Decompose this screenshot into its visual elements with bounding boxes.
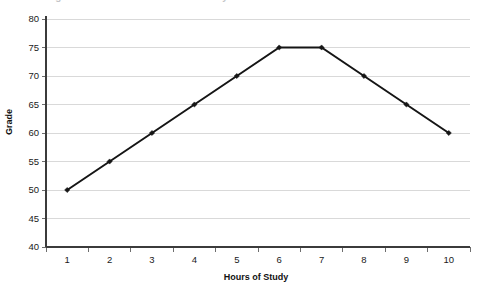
y-tick-label: 65 <box>28 99 39 110</box>
line-chart: Figure: Grade versus Hours of Study Grad… <box>0 0 486 293</box>
gridlines <box>46 19 470 219</box>
y-tick-label: 40 <box>28 241 39 252</box>
x-axis-tick-labels: 12345678910 <box>65 254 455 265</box>
data-series-grade <box>67 48 449 191</box>
y-tick-label: 70 <box>28 70 39 81</box>
x-tick-label: 1 <box>65 254 70 265</box>
x-tick-label: 7 <box>319 254 324 265</box>
data-point-markers <box>65 45 452 193</box>
x-tick-label: 10 <box>444 254 455 265</box>
axis-lines <box>46 16 470 247</box>
x-axis-title: Hours of Study <box>46 272 466 282</box>
x-tick-label: 2 <box>107 254 112 265</box>
y-axis-tick-labels: 404550556065707580 <box>28 13 39 252</box>
y-tick-label: 60 <box>28 127 39 138</box>
series-line-grade <box>67 48 449 191</box>
x-tick-label: 8 <box>361 254 366 265</box>
x-tick-label: 6 <box>277 254 282 265</box>
plot-area: 404550556065707580 12345678910 <box>0 0 486 293</box>
y-tick-label: 80 <box>28 13 39 24</box>
x-tick-label: 3 <box>149 254 154 265</box>
x-tick-label: 9 <box>404 254 409 265</box>
y-tick-label: 50 <box>28 184 39 195</box>
x-tick-label: 5 <box>234 254 239 265</box>
tick-marks <box>42 19 470 252</box>
y-tick-label: 55 <box>28 156 39 167</box>
y-tick-label: 45 <box>28 213 39 224</box>
x-tick-label: 4 <box>192 254 197 265</box>
y-tick-label: 75 <box>28 42 39 53</box>
